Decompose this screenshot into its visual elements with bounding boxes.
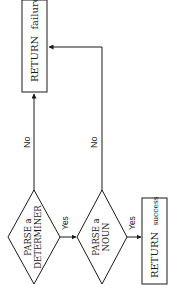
return-success-word2: success bbox=[151, 196, 160, 225]
svg-text:PARSE a: PARSE a bbox=[23, 218, 33, 255]
parse-noun-node: PARSE a NOUN bbox=[77, 190, 127, 284]
return-failure-word2: failure bbox=[29, 0, 40, 30]
svg-text:PARSE a: PARSE a bbox=[91, 218, 101, 255]
edge-determiner-yes: Yes bbox=[60, 216, 76, 237]
svg-text:NOUN: NOUN bbox=[101, 222, 111, 252]
noun-line1: PARSE a bbox=[91, 218, 101, 255]
determiner-line1: PARSE a bbox=[23, 218, 33, 255]
edge-label-yes-2: Yes bbox=[127, 216, 137, 230]
return-failure-word1: RETURN bbox=[29, 36, 40, 82]
noun-line2: NOUN bbox=[101, 222, 111, 252]
edge-noun-yes: Yes bbox=[127, 216, 141, 237]
determiner-line2: DETERMINER bbox=[33, 205, 43, 269]
edge-label-no-1: No bbox=[22, 136, 32, 148]
flowchart: RETURN failure No No PARSE a DETERMINER … bbox=[0, 0, 170, 298]
parse-determiner-node: PARSE a DETERMINER bbox=[8, 190, 60, 284]
return-success-node: RETURN success bbox=[142, 196, 167, 284]
svg-text:RETURN success: RETURN success bbox=[149, 196, 160, 278]
edge-label-yes-1: Yes bbox=[60, 216, 70, 230]
edge-determiner-no: No bbox=[22, 94, 34, 192]
svg-text:RETURN failure: RETURN failure bbox=[29, 0, 40, 82]
svg-text:DETERMINER: DETERMINER bbox=[33, 205, 43, 269]
edge-noun-no: No bbox=[49, 47, 102, 192]
return-success-word1: RETURN bbox=[149, 232, 160, 278]
edge-label-no-2: No bbox=[89, 136, 99, 148]
return-failure-node: RETURN failure bbox=[22, 0, 47, 92]
